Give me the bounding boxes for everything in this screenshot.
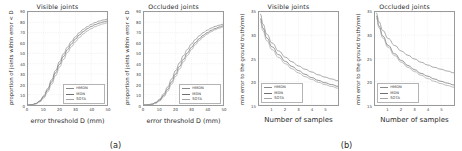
legend-swatch-hmdn [66,88,74,89]
legend: HMDNMDNSOTA [179,84,221,104]
y-tick-label: 30 [361,33,372,38]
panel-b-visible-joints: Visible joints min error to the ground t… [231,0,346,132]
x-axis-label: Number of samples [374,116,455,124]
x-tick-label: 2 [279,107,291,112]
y-tick-label: 10 [14,93,25,98]
y-tick-label: 35 [245,9,256,14]
legend-swatch-sota [264,98,272,99]
y-tick-label: 50 [130,51,141,56]
legend-swatch-sota [66,99,74,100]
y-tick-label: 80 [130,20,141,25]
legend-swatch-hmdn [182,88,190,89]
legend-entry: SOTA [66,97,102,102]
x-tick-label: 4 [306,107,318,112]
y-tick-label: 20 [130,83,141,88]
y-tick-label: 15 [361,104,372,109]
y-tick-label: 50 [14,51,25,56]
y-tick-label: 25 [361,57,372,62]
x-tick-label: 50 [102,107,114,112]
x-tick-label: 3 [409,107,421,112]
legend: HMDNMDNSOTA [377,83,419,103]
y-tick-label: 30 [14,72,25,77]
panel-a-occluded-joints: Occluded joints proportion of joints wit… [116,0,231,132]
y-tick-label: 20 [245,80,256,85]
y-tick-label: 25 [245,57,256,62]
legend-swatch-sota [182,99,190,100]
x-axis-label: error threshold D (mm) [143,117,224,125]
panel-b-occluded-joints: Occluded joints min error to the ground … [347,0,462,132]
y-tick-label: 35 [361,9,372,14]
x-tick-label: 40 [86,107,98,112]
legend-swatch-mdn [264,93,272,94]
x-tick-label: 5 [436,107,448,112]
y-tick-label: 0 [14,104,25,109]
legend: HMDNMDNSOTA [63,84,105,104]
legend-label: SOTA [192,97,202,102]
legend-swatch-mdn [66,94,74,95]
legend-swatch-hmdn [264,87,272,88]
y-tick-label: 15 [245,104,256,109]
x-tick-label: 1 [266,107,278,112]
x-tick-label: 30 [186,107,198,112]
y-tick-label: 40 [130,62,141,67]
subfigure-caption-a: (a) [0,140,231,150]
subfigure-caption-b: (b) [231,140,462,150]
x-tick-label: 2 [395,107,407,112]
y-tick-label: 60 [130,41,141,46]
y-tick-label: 30 [130,72,141,77]
subfigure-b-panels: Visible joints min error to the ground t… [231,0,462,132]
legend: HMDNMDNSOTA [261,83,303,103]
x-tick-label: 10 [37,107,49,112]
legend-swatch-mdn [380,93,388,94]
subfigure-a: Visible joints proportion of joints with… [0,0,231,151]
y-tick-label: 20 [14,83,25,88]
legend-swatch-sota [380,98,388,99]
y-tick-label: 90 [130,9,141,14]
y-tick-label: 80 [14,20,25,25]
y-tick-label: 70 [14,30,25,35]
x-tick-label: 30 [70,107,82,112]
subfigure-b: Visible joints min error to the ground t… [231,0,462,151]
x-tick-label: 4 [422,107,434,112]
panel-a-visible-joints: Visible joints proportion of joints with… [0,0,115,132]
legend-label: SOTA [76,97,86,102]
x-axis-label: Number of samples [258,116,339,124]
y-tick-label: 60 [14,41,25,46]
x-axis-label: error threshold D (mm) [27,117,108,125]
y-tick-label: 20 [361,80,372,85]
x-tick-label: 50 [218,107,230,112]
x-tick-label: 5 [320,107,332,112]
y-tick-label: 70 [130,30,141,35]
x-tick-label: 40 [202,107,214,112]
y-tick-label: 90 [14,9,25,14]
y-tick-label: 30 [245,33,256,38]
legend-swatch-mdn [182,94,190,95]
legend-swatch-hmdn [380,87,388,88]
legend-entry: SOTA [264,96,300,101]
x-tick-label: 3 [293,107,305,112]
figure-root: Visible joints proportion of joints with… [0,0,462,151]
legend-entry: SOTA [380,96,416,101]
x-tick-label: 10 [153,107,165,112]
legend-entry: SOTA [182,97,218,102]
y-tick-label: 40 [14,62,25,67]
x-tick-label: 1 [382,107,394,112]
y-tick-label: 0 [130,104,141,109]
legend-label: SOTA [274,96,284,101]
y-tick-label: 10 [130,93,141,98]
x-tick-label: 20 [53,107,65,112]
legend-label: SOTA [390,96,400,101]
subfigure-a-panels: Visible joints proportion of joints with… [0,0,231,132]
x-tick-label: 20 [169,107,181,112]
